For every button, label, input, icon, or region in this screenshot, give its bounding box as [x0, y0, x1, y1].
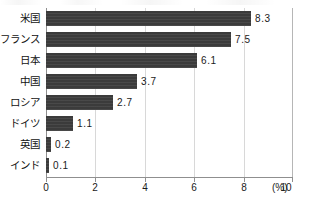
bar-value-6: 0.2 — [51, 137, 71, 152]
bar-2 — [46, 53, 197, 68]
category-label-5: ドイツ — [0, 113, 40, 134]
bar-value-3: 3.7 — [137, 74, 157, 89]
bar-5 — [46, 116, 73, 131]
xtick-label-6: 6 — [191, 182, 197, 193]
bar-value-4: 2.7 — [113, 95, 133, 110]
xtick-label-2: 2 — [92, 182, 98, 193]
bar-value-1: 7.5 — [231, 32, 251, 47]
bar-1 — [46, 32, 231, 47]
category-label-0: 米国 — [0, 8, 40, 29]
category-label-1: フランス — [0, 29, 40, 50]
plot-right-border — [292, 8, 293, 178]
x-axis-unit-label: (%) — [272, 182, 288, 193]
bar-value-7: 0.1 — [49, 158, 69, 173]
plot-area: 8.3 7.5 6.1 3.7 2.7 1.1 0.2 0.1 — [46, 8, 293, 178]
bar-0 — [46, 11, 251, 26]
bar-chart: 米国 フランス 日本 中国 ロシア ドイツ 英国 インド 8.3 7.5 6. — [0, 0, 313, 208]
category-label-3: 中国 — [0, 71, 40, 92]
bar-value-2: 6.1 — [197, 53, 217, 68]
x-axis-line — [46, 177, 293, 178]
bar-value-0: 8.3 — [251, 11, 271, 26]
xtick-label-8: 8 — [241, 182, 247, 193]
bar-value-5: 1.1 — [73, 116, 93, 131]
category-label-2: 日本 — [0, 50, 40, 71]
category-label-4: ロシア — [0, 92, 40, 113]
xtick-label-4: 4 — [142, 182, 148, 193]
bar-3 — [46, 74, 137, 89]
category-label-6: 英国 — [0, 134, 40, 155]
bar-4 — [46, 95, 113, 110]
xtick-10 — [292, 178, 293, 182]
scan-artifact — [0, 0, 313, 5]
xtick-label-0: 0 — [43, 182, 49, 193]
category-label-7: インド — [0, 155, 40, 176]
